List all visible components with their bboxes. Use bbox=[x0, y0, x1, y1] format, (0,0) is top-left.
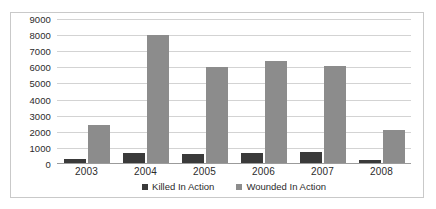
legend-label: Killed In Action bbox=[152, 181, 214, 192]
chart-legend: Killed In ActionWounded In Action bbox=[57, 181, 411, 192]
y-tick-label: 4000 bbox=[29, 94, 51, 105]
plot-area bbox=[57, 19, 411, 164]
y-tick-label: 0 bbox=[46, 159, 51, 170]
bar-group bbox=[175, 19, 234, 164]
legend-label: Wounded In Action bbox=[246, 181, 326, 192]
x-tick-label: 2003 bbox=[57, 166, 116, 177]
y-tick-label: 5000 bbox=[29, 78, 51, 89]
y-tick-label: 3000 bbox=[29, 110, 51, 121]
y-axis: 9000800070006000500040003000200010000 bbox=[11, 19, 55, 164]
bar-2006-wounded[interactable] bbox=[265, 61, 287, 164]
y-tick-label: 6000 bbox=[29, 62, 51, 73]
x-tick-label: 2005 bbox=[175, 166, 234, 177]
x-tick-label: 2008 bbox=[352, 166, 411, 177]
x-tick-label: 2006 bbox=[234, 166, 293, 177]
x-tick-label: 2004 bbox=[116, 166, 175, 177]
bar-2005-wounded[interactable] bbox=[206, 67, 228, 164]
bar-group bbox=[234, 19, 293, 164]
bar-2003-wounded[interactable] bbox=[88, 125, 110, 164]
axis-baseline bbox=[57, 163, 411, 164]
x-tick-label: 2007 bbox=[293, 166, 352, 177]
bar-2004-wounded[interactable] bbox=[147, 35, 169, 164]
y-tick-label: 9000 bbox=[29, 14, 51, 25]
bar-group bbox=[57, 19, 116, 164]
bar-group bbox=[352, 19, 411, 164]
cropped-caption-sliver bbox=[0, 0, 436, 9]
chart-plot-wrapper: 9000800070006000500040003000200010000 20… bbox=[11, 13, 423, 197]
y-tick-label: 1000 bbox=[29, 142, 51, 153]
legend-swatch-icon bbox=[142, 184, 148, 190]
chart-frame: 9000800070006000500040003000200010000 20… bbox=[10, 12, 424, 198]
y-tick-label: 2000 bbox=[29, 126, 51, 137]
y-tick-label: 8000 bbox=[29, 30, 51, 41]
bar-group bbox=[293, 19, 352, 164]
x-axis: 200320042005200620072008 bbox=[57, 166, 411, 177]
legend-entry[interactable]: Wounded In Action bbox=[236, 181, 326, 192]
bar-2007-wounded[interactable] bbox=[324, 66, 346, 164]
y-tick-label: 7000 bbox=[29, 46, 51, 57]
bars-layer bbox=[57, 19, 411, 164]
legend-entry[interactable]: Killed In Action bbox=[142, 181, 214, 192]
bar-group bbox=[116, 19, 175, 164]
bar-2008-wounded[interactable] bbox=[383, 130, 405, 164]
legend-swatch-icon bbox=[236, 184, 242, 190]
